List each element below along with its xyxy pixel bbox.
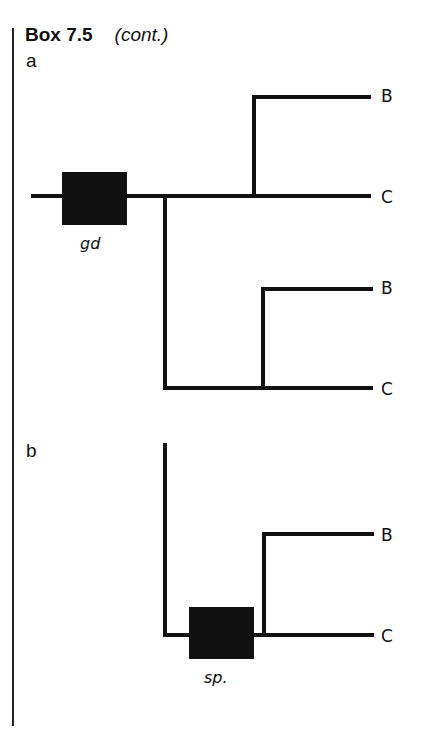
tip-label-c: C: [381, 626, 393, 646]
speciation-box-icon: [189, 607, 254, 659]
sp-label: sp.: [204, 668, 228, 687]
tip-label-c-upper: C: [381, 187, 393, 207]
gd-label: gd: [80, 234, 100, 253]
tip-label-b: B: [381, 525, 393, 545]
panel-b-tree: [165, 445, 372, 635]
phylogeny-diagram: [0, 0, 421, 729]
tip-label-b-lower: B: [381, 278, 393, 298]
panel-b-label: b: [26, 440, 37, 462]
tip-label-c-lower: C: [381, 379, 393, 399]
gene-duplication-box-icon: [62, 172, 127, 225]
tip-label-b-upper: B: [381, 86, 393, 106]
